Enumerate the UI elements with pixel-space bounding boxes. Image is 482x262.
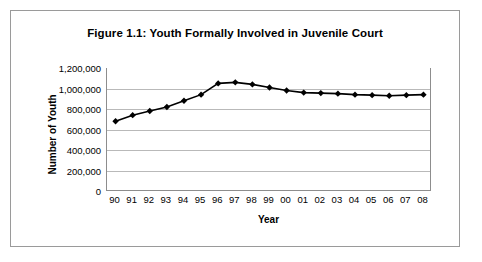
x-axis-tick-label: 92: [143, 194, 154, 205]
data-point-marker: [420, 91, 426, 97]
data-point-marker: [335, 90, 341, 96]
data-point-marker: [164, 104, 170, 110]
data-point-marker: [403, 92, 409, 98]
x-axis-tick-label: 91: [126, 194, 137, 205]
data-point-marker: [112, 118, 118, 124]
data-point-marker: [283, 87, 289, 93]
data-point-marker: [147, 108, 153, 114]
x-axis-tick-label: 00: [280, 194, 291, 205]
x-axis-tick-label: 93: [161, 194, 172, 205]
x-axis-tick-label: 06: [383, 194, 394, 205]
x-axis-tick-label: 97: [229, 194, 240, 205]
data-series: [107, 68, 432, 191]
y-axis-tick-label: 600,000: [67, 124, 101, 135]
data-point-marker: [318, 90, 324, 96]
y-axis-tick-labels: 1,200,0001,000,000800,000600,000400,0002…: [11, 68, 101, 191]
chart-plot-wrapper: Number of Youth 1,200,0001,000,000800,00…: [11, 11, 461, 248]
x-axis-tick-label: 94: [178, 194, 189, 205]
y-axis-tick-label: 1,000,000: [59, 83, 101, 94]
y-axis-tick-label: 800,000: [67, 104, 101, 115]
x-axis-tick-label: 03: [332, 194, 343, 205]
x-axis-tick-label: 90: [109, 194, 120, 205]
y-axis-tick-label: 400,000: [67, 145, 101, 156]
data-point-marker: [386, 92, 392, 98]
data-point-marker: [369, 92, 375, 98]
plot-area: [106, 68, 431, 191]
y-axis-tick-label: 200,000: [67, 165, 101, 176]
data-point-marker: [249, 81, 255, 87]
x-axis-tick-label: 02: [315, 194, 326, 205]
y-axis-tick-label: 0: [96, 186, 101, 197]
data-point-marker: [181, 98, 187, 104]
x-axis-tick-label: 01: [297, 194, 308, 205]
x-axis-tick-label: 08: [417, 194, 428, 205]
x-axis-tick-label: 04: [349, 194, 360, 205]
x-axis-tick-label: 07: [400, 194, 411, 205]
y-axis-tick-label: 1,200,000: [59, 63, 101, 74]
x-axis-tick-label: 05: [366, 194, 377, 205]
x-axis-tick-labels: 90919293949596979899000102030405060708: [106, 194, 431, 208]
data-point-marker: [232, 79, 238, 85]
data-point-marker: [129, 112, 135, 118]
figure-border: Figure 1.1: Youth Formally Involved in J…: [10, 10, 460, 247]
data-point-marker: [301, 89, 307, 95]
x-axis-tick-label: 95: [195, 194, 206, 205]
x-axis-tick-label: 99: [263, 194, 274, 205]
data-point-marker: [266, 84, 272, 90]
x-axis-title: Year: [106, 214, 431, 225]
x-axis-tick-label: 96: [212, 194, 223, 205]
x-axis-tick-label: 98: [246, 194, 257, 205]
data-point-marker: [352, 91, 358, 97]
